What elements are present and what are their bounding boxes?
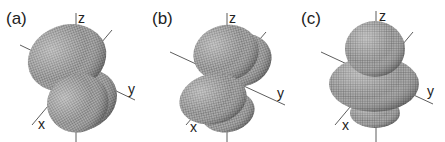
axis-label-z-a: z	[78, 11, 85, 25]
panel-label-c: (c)	[301, 9, 321, 29]
axis-label-z-b: z	[229, 11, 236, 25]
panel-label-a: (a)	[6, 9, 27, 29]
panel-b: (b) z y x	[150, 0, 298, 142]
axis-label-y-b: y	[277, 86, 284, 100]
axis-label-z-c: z	[379, 9, 386, 23]
axis-label-x-b: x	[190, 120, 197, 134]
axis-label-x-a: x	[38, 117, 45, 131]
panel-a: (a) z y x	[0, 0, 148, 142]
panel-c: (c) z y x	[295, 0, 443, 142]
axis-label-x-c: x	[342, 118, 349, 132]
axis-label-y-c: y	[427, 84, 434, 98]
axis-label-y-a: y	[128, 82, 135, 96]
panel-label-b: (b)	[152, 9, 173, 29]
